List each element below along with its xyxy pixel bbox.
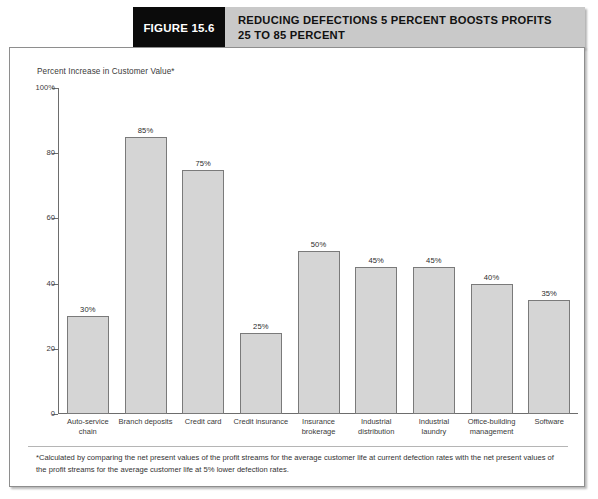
x-category-label-line: Office-building xyxy=(464,417,520,427)
y-tick-label: 60 xyxy=(47,213,55,222)
footnote-divider xyxy=(28,446,568,447)
plot-area: 020406080100% 30%85%75%25%50%45%45%40%35… xyxy=(58,88,578,414)
x-category-label-line: Insurance xyxy=(291,417,347,427)
x-category-label-line: laundry xyxy=(406,427,462,437)
x-category-label-line: Branch deposits xyxy=(118,417,174,427)
x-category-label-line: chain xyxy=(60,427,116,437)
x-category-label-line: brokerage xyxy=(291,427,347,437)
bar-slot: 85% xyxy=(117,88,175,414)
y-tick-label: 20 xyxy=(47,344,55,353)
y-tick-label: 40 xyxy=(47,279,55,288)
figure-header-band: FIGURE 15.6 REDUCING DEFECTIONS 5 PERCEN… xyxy=(133,7,585,48)
bar xyxy=(125,137,167,414)
y-tick-label: 80 xyxy=(47,148,55,157)
y-tick-label: 0 xyxy=(51,409,55,418)
bar xyxy=(413,267,455,414)
x-category-label-line: management xyxy=(464,427,520,437)
bar-slot: 35% xyxy=(520,88,578,414)
bar-value-label: 75% xyxy=(195,159,211,168)
x-category-label-line: Auto-service xyxy=(60,417,116,427)
x-category-label-line: distribution xyxy=(348,427,404,437)
bar-value-label: 45% xyxy=(368,256,384,265)
x-category-label: Software xyxy=(520,417,578,437)
figure-title-line-2: 25 TO 85 PERCENT xyxy=(238,28,585,43)
bar-slot: 75% xyxy=(174,88,232,414)
figure-title-line-1: REDUCING DEFECTIONS 5 PERCENT BOOSTS PRO… xyxy=(238,13,585,28)
bar xyxy=(298,251,340,414)
x-axis-category-labels: Auto-servicechainBranch depositsCredit c… xyxy=(59,417,578,437)
x-category-label-line: Credit card xyxy=(175,417,231,427)
y-axis-title: Percent Increase in Customer Value* xyxy=(37,67,175,76)
y-tick-label: 100% xyxy=(36,83,55,92)
bar xyxy=(67,316,109,414)
bar-slot: 45% xyxy=(405,88,463,414)
x-category-label: Branch deposits xyxy=(117,417,175,437)
x-category-label: Industriallaundry xyxy=(405,417,463,437)
bar xyxy=(182,170,224,415)
bar-value-label: 45% xyxy=(426,256,442,265)
x-category-label: Credit insurance xyxy=(232,417,290,437)
figure-number-tag: FIGURE 15.6 xyxy=(133,7,225,48)
bar-value-label: 85% xyxy=(138,126,154,135)
x-category-label-line: Industrial xyxy=(348,417,404,427)
x-category-label-line: Credit insurance xyxy=(233,417,289,427)
bar-slot: 30% xyxy=(59,88,117,414)
figure-title-box: REDUCING DEFECTIONS 5 PERCENT BOOSTS PRO… xyxy=(225,7,585,48)
bar xyxy=(240,333,282,415)
bar-value-label: 30% xyxy=(80,305,96,314)
x-category-label-line: Software xyxy=(521,417,577,427)
bar-slot: 50% xyxy=(290,88,348,414)
figure-frame: Percent Increase in Customer Value* 0204… xyxy=(9,47,585,487)
x-category-label: Auto-servicechain xyxy=(59,417,117,437)
bar xyxy=(471,284,513,414)
bar-value-label: 35% xyxy=(541,289,557,298)
bar xyxy=(528,300,570,414)
bar-slot: 25% xyxy=(232,88,290,414)
bar-series: 30%85%75%25%50%45%45%40%35% xyxy=(59,88,578,414)
bar-slot: 45% xyxy=(347,88,405,414)
x-category-label: Insurancebrokerage xyxy=(290,417,348,437)
x-category-label: Credit card xyxy=(174,417,232,437)
bar-value-label: 40% xyxy=(484,273,500,282)
bar-value-label: 25% xyxy=(253,322,269,331)
bar-value-label: 50% xyxy=(311,240,327,249)
x-category-label-line: Industrial xyxy=(406,417,462,427)
bar xyxy=(355,267,397,414)
x-category-label: Office-buildingmanagement xyxy=(463,417,521,437)
figure-footnote: *Calculated by comparing the net present… xyxy=(36,452,566,475)
x-category-label: Industrialdistribution xyxy=(347,417,405,437)
bar-slot: 40% xyxy=(463,88,521,414)
